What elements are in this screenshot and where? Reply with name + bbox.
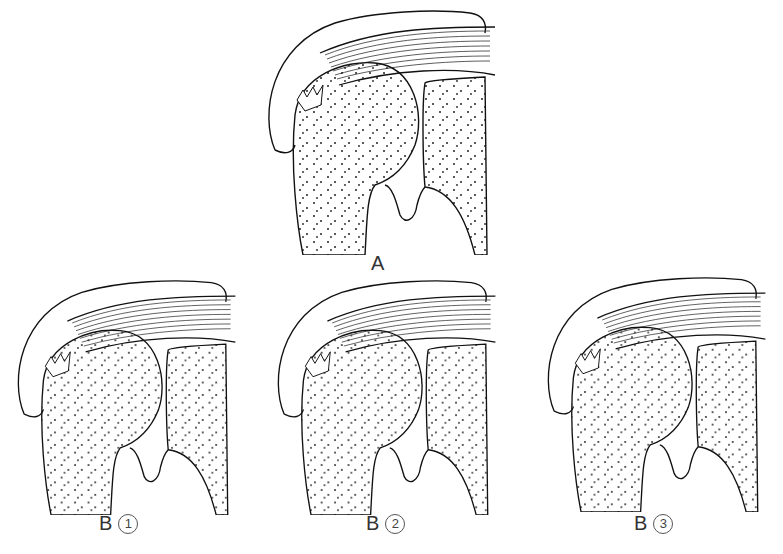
panel-label-b3: B3: [634, 512, 673, 535]
panel-number-badge: 1: [118, 514, 138, 534]
panel-label-b1: B1: [99, 512, 138, 535]
shoulder-illustration: [5, 275, 245, 515]
diagram-panel-a: [255, 5, 505, 255]
diagram-panel-b2: [265, 275, 505, 515]
panel-number-badge: 2: [385, 514, 405, 534]
shoulder-illustration: [535, 272, 775, 512]
diagram-panel-b1: [5, 275, 245, 515]
panel-label-b2: B2: [366, 512, 405, 535]
shoulder-illustration: [255, 5, 505, 255]
diagram-panel-b3: [535, 272, 775, 512]
panel-label-a: A: [371, 252, 384, 275]
panel-number-badge: 3: [653, 514, 673, 534]
shoulder-illustration: [265, 275, 505, 515]
